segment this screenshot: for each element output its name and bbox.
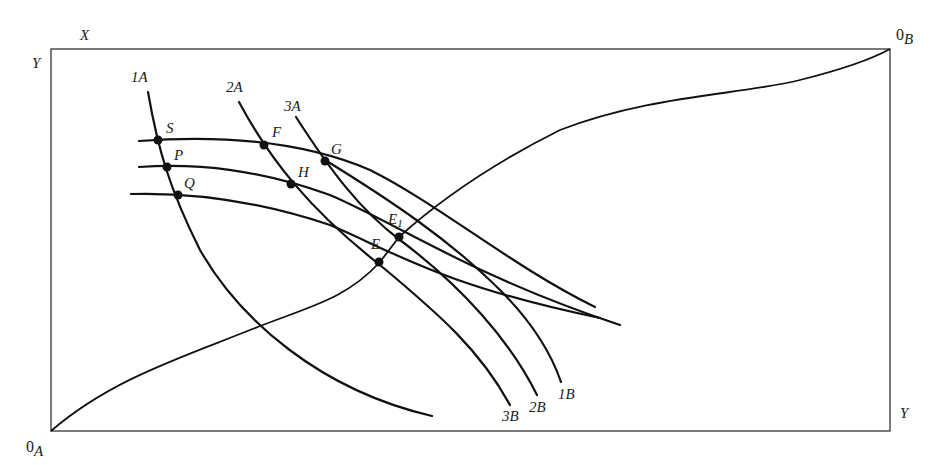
contract-curve <box>51 49 890 431</box>
point-label-e1: E1 <box>387 211 403 229</box>
curve-label-3a: 3A <box>283 98 302 114</box>
point-e1 <box>395 233 404 242</box>
curve-label-3b: 3B <box>501 408 519 424</box>
origin-a-label: 0A <box>26 438 44 459</box>
curve-label-2a: 2A <box>226 79 244 95</box>
curve-label-1a: 1A <box>131 69 149 85</box>
point-label-g: G <box>331 141 342 157</box>
curve-label-1b: 1B <box>558 386 575 402</box>
point-label-h: H <box>297 164 310 180</box>
point-p <box>163 163 172 172</box>
origin-b-label: 0B <box>896 26 913 47</box>
edgeworth-box-frame <box>51 49 890 431</box>
curve-label-2b: 2B <box>529 399 546 415</box>
indifference-curve-3a <box>296 117 537 395</box>
axis-label-y-right: Y <box>900 405 910 421</box>
point-label-q: Q <box>184 175 195 191</box>
edgeworth-box-diagram: X Y Y 0A 0B 1A 2A 3A 1B 2B 3B S P Q F G … <box>0 0 947 465</box>
axis-label-y-left: Y <box>32 55 42 71</box>
point-s <box>154 136 163 145</box>
point-f <box>260 141 269 150</box>
axis-label-x: X <box>79 27 90 43</box>
point-label-f: F <box>271 124 282 140</box>
indifference-curve-3a-for-b <box>139 139 595 307</box>
point-q <box>174 191 183 200</box>
point-label-p: P <box>173 147 183 163</box>
point-h <box>287 180 296 189</box>
point-g <box>321 157 330 166</box>
indifference-curve-1b <box>325 160 561 382</box>
indifference-curve-2a <box>239 102 510 405</box>
point-label-s: S <box>166 120 174 136</box>
point-e <box>375 258 384 267</box>
point-label-e: E <box>370 236 380 252</box>
indifference-curve-1a <box>148 92 432 416</box>
